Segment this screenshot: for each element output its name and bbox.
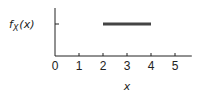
y-label-sub: X xyxy=(12,24,19,33)
y-axis-label: fX(x) xyxy=(9,18,34,33)
x-axis-label: x xyxy=(123,80,131,93)
x-tick-label: 5 xyxy=(172,59,179,73)
uniform-pdf-chart: 012345 fX(x) x xyxy=(0,0,200,96)
x-tick-label: 1 xyxy=(76,59,83,73)
x-tick-label: 0 xyxy=(52,59,59,73)
x-tick-label: 3 xyxy=(124,59,131,73)
x-tick-label: 4 xyxy=(148,59,155,73)
y-label-arg: (x) xyxy=(19,18,34,31)
x-tick-label: 2 xyxy=(100,59,107,73)
